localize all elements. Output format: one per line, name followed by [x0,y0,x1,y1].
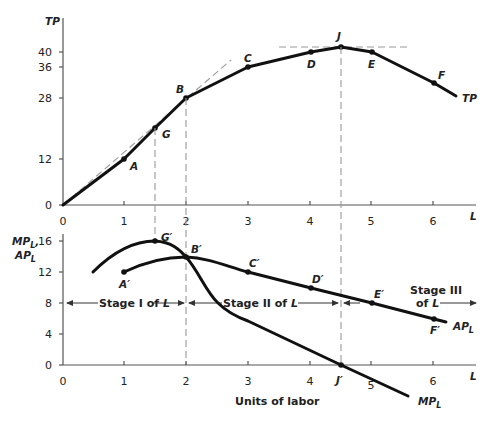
top-y-axis-label: TP [45,15,60,27]
top-x-tick-label: 0 [60,215,67,228]
tp-curve-label: TP [462,92,477,104]
production-stages-figure: TP L 0 12 28 36 40 0 1 2 3 4 [0,0,496,424]
top-y-tick-label: 28 [38,92,52,105]
point-label-b: B [176,83,184,95]
bottom-y-axis-label-ap: APL [14,249,36,264]
bottom-y-tick-label: 0 [45,359,52,372]
stage-3-label-line1: Stage III [410,284,462,297]
bottom-y-axis-label-mp: MPL, [12,235,39,250]
bottom-y-tick-label: 4 [45,328,52,341]
point-label-e-prime: E′ [374,288,384,300]
point-label-e: E [368,58,376,70]
bottom-panel: MPL, APL L 0 4 8 12 16 0 1 2 3 [12,231,477,410]
top-x-tick-label: 5 [368,215,375,228]
point-label-d-prime: D′ [312,273,324,285]
ap-curve [124,257,446,322]
top-y-tick-label: 36 [38,61,52,74]
point-label-j-prime: J′ [334,374,343,386]
point-label-d: D [307,58,316,70]
bottom-x-tick-label: 2 [183,375,190,388]
bottom-x-tick-label: 6 [430,375,437,388]
top-x-tick-label: 6 [430,215,437,228]
top-x-tick-label: 3 [245,215,252,228]
point-label-b-prime: B′ [191,243,202,255]
bottom-y-tick-label: 12 [38,266,52,279]
bottom-x-tick-label: 0 [60,375,67,388]
bottom-x-tick-label: 1 [121,375,128,388]
tp-curve [63,47,456,205]
point-label-g-prime: G′ [161,231,173,243]
bottom-x-axis-label: L [470,370,477,382]
ap-curve-label: APL [452,320,474,335]
tangent-ray-from-origin [63,60,231,205]
stage-2-label: Stage II of L [223,297,298,310]
stage-1-label: Stage I of L [99,297,170,310]
bottom-y-ticks: 0 4 8 12 16 [38,235,63,372]
mp-curve-label: MPL [418,395,441,410]
top-panel: TP L 0 12 28 36 40 0 1 2 3 4 [38,15,477,228]
point-label-g: G [162,128,171,140]
point-label-c: C [244,52,252,64]
bottom-x-tick-label: 3 [245,375,252,388]
top-x-tick-label: 1 [121,215,128,228]
top-x-tick-label: 4 [307,215,314,228]
point-label-a: A [129,160,138,172]
point-label-f: F [438,69,446,81]
x-axis-title: Units of labor [235,395,320,408]
top-y-tick-label: 40 [38,46,52,59]
bottom-x-tick-label: 4 [307,375,314,388]
stage-3-label-line2: of L [416,297,439,310]
top-y-tick-label: 0 [45,199,52,212]
point-label-a-prime: A′ [118,278,130,290]
top-y-tick-label: 12 [38,153,52,166]
point-label-c-prime: C′ [249,257,260,269]
bottom-x-ticks: 0 1 2 3 4 5 6 [60,361,437,392]
point-label-j: J [335,30,341,42]
bottom-y-tick-label: 8 [45,297,52,310]
top-x-axis-label: L [470,210,477,222]
top-y-ticks: 0 12 28 36 40 [38,46,63,212]
point-label-f-prime: F′ [430,324,440,336]
bottom-y-tick-label: 16 [38,235,52,248]
